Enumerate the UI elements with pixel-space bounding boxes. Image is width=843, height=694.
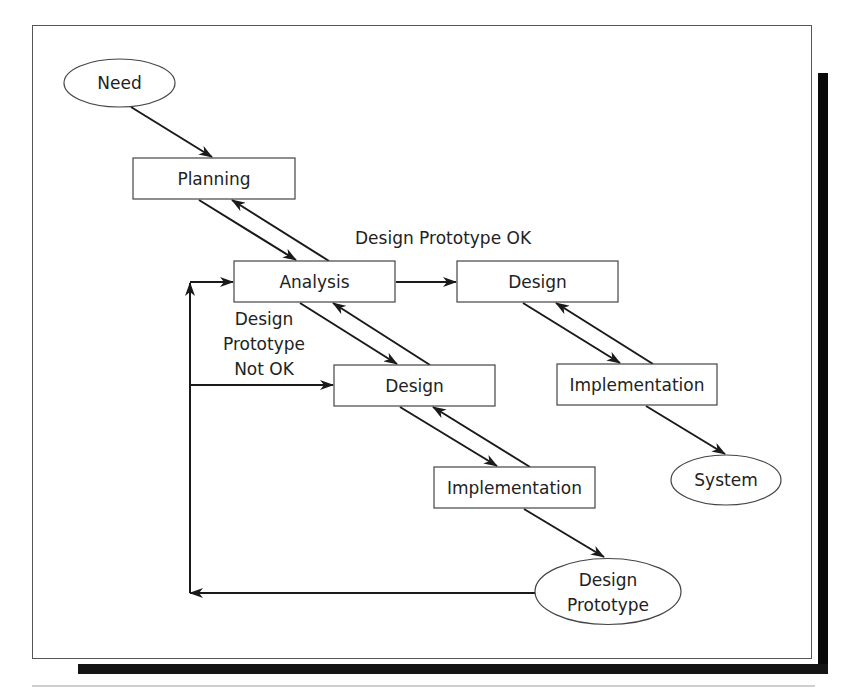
design-final-label: Design (508, 272, 567, 292)
diagram-canvas: Need Planning Analysis Design Design Imp… (0, 0, 843, 694)
implementation-final-label: Implementation (570, 375, 705, 395)
node-system: System (671, 455, 781, 505)
node-analysis: Analysis (234, 261, 395, 302)
node-need: Need (64, 59, 175, 107)
edge-need-to-planning (131, 107, 212, 157)
edge-label-prototype-ok: Design Prototype OK (355, 228, 532, 248)
implementation-proto-label: Implementation (447, 478, 582, 498)
node-planning: Planning (133, 158, 295, 199)
analysis-label: Analysis (279, 272, 349, 292)
node-design-final: Design (457, 261, 618, 302)
node-design-prototype: Design Prototype (535, 559, 681, 625)
not-ok-label-line2: Prototype (223, 334, 305, 354)
flowchart-svg: Need Planning Analysis Design Design Imp… (0, 0, 843, 694)
need-label: Need (97, 73, 141, 93)
design-prototype-label-line2: Prototype (567, 595, 649, 615)
not-ok-label-line3: Not OK (234, 359, 295, 379)
system-label: System (694, 470, 757, 490)
node-implementation-final: Implementation (557, 364, 717, 405)
node-implementation-proto: Implementation (434, 467, 595, 508)
design-proto-label: Design (385, 376, 444, 396)
edge-impl-proto-to-design-prototype (524, 509, 604, 557)
design-prototype-label-line1: Design (579, 570, 638, 590)
planning-label: Planning (177, 169, 250, 189)
not-ok-label-line1: Design (235, 309, 294, 329)
edge-impl-final-to-system (646, 406, 725, 454)
node-design-proto: Design (334, 365, 495, 406)
edge-label-prototype-not-ok: Design Prototype Not OK (223, 309, 305, 379)
